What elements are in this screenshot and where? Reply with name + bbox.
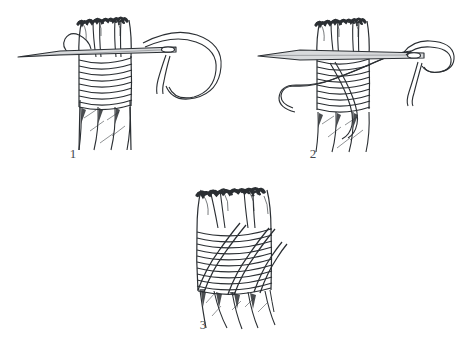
figure-2-label: 2 — [303, 147, 323, 161]
figure-1-label: 1 — [63, 147, 83, 161]
figure-3-label: 3 — [193, 318, 213, 332]
needle-eye — [162, 47, 175, 52]
whipping-illustration-plate — [0, 0, 468, 349]
needle-eye — [408, 53, 421, 58]
